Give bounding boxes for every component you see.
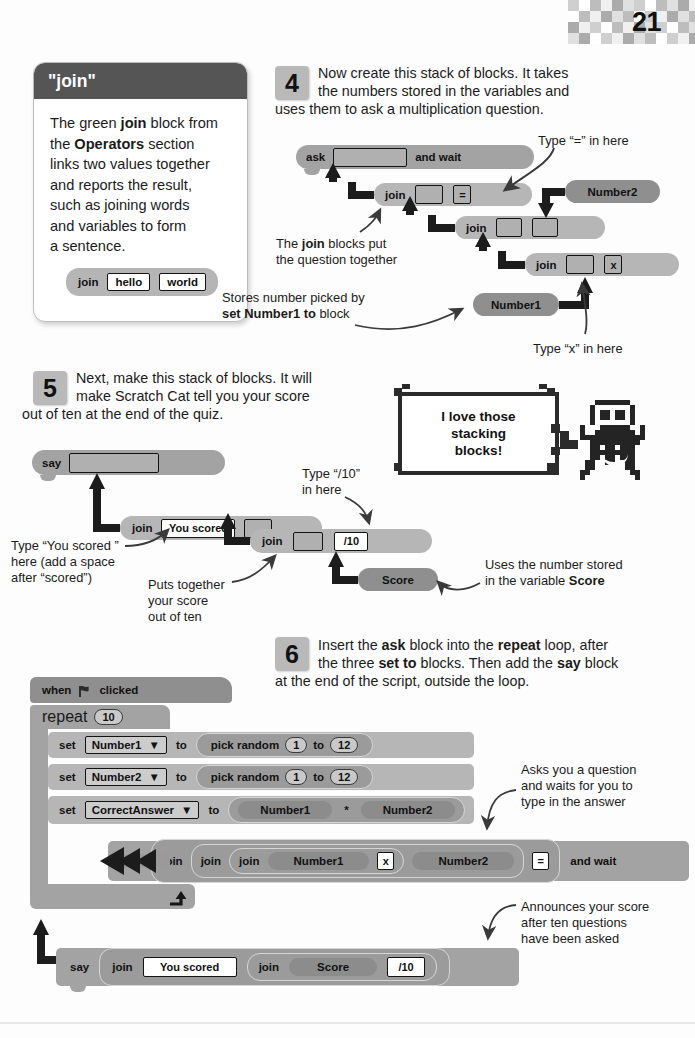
join-slash10-slot-1[interactable] xyxy=(293,532,323,551)
say6-slash10-field[interactable]: /10 xyxy=(387,957,425,977)
multiply-operator-block[interactable]: Number1 * Number2 xyxy=(228,797,464,823)
say-block-label: say xyxy=(42,457,61,469)
repeat-times-value[interactable]: 10 xyxy=(94,709,122,725)
set1-var-name: Number1 xyxy=(92,739,142,751)
annotation-announces-line-2: after ten questions xyxy=(521,915,627,931)
s6-1a: Insert the xyxy=(318,637,382,653)
say6-score-variable[interactable]: Score xyxy=(289,958,377,976)
page-canvas: 21 "join" The green join block from the … xyxy=(0,0,695,1038)
set2-variable-dropdown[interactable]: Number2 ▼ xyxy=(85,768,167,786)
when-label: when xyxy=(42,684,71,696)
say-block-step5[interactable]: say xyxy=(32,450,225,475)
join-bot-label: join xyxy=(536,259,556,271)
annotation-type-x: Type “x” in here xyxy=(533,341,623,357)
join-bot-slot-1[interactable] xyxy=(566,255,594,274)
join-top-slot-1[interactable] xyxy=(415,185,443,204)
set2-set-label: set xyxy=(59,771,76,783)
say-block-step6[interactable]: say join You scored join Score /10 xyxy=(56,948,519,986)
chevron-down-icon: ▼ xyxy=(148,771,159,783)
pick-random-2-to-label: to xyxy=(313,771,324,783)
pick-random-2-from[interactable]: 1 xyxy=(285,769,307,785)
set3-to-label: to xyxy=(208,804,219,816)
number2-label: Number2 xyxy=(588,186,638,198)
ask6-join2-label: join xyxy=(201,855,221,867)
set1-variable-dropdown[interactable]: Number1 ▼ xyxy=(85,736,167,754)
join-demo-field-2[interactable]: world xyxy=(159,273,206,291)
set-correctanswer-block[interactable]: set CorrectAnswer ▼ to Number1 * Number2 xyxy=(48,796,474,824)
say6-join-outer[interactable]: join You scored join Score /10 xyxy=(99,948,450,986)
s6-1c: block into the xyxy=(405,637,497,653)
ann-jb-1: The xyxy=(276,236,302,251)
join-mid-slot-1[interactable] xyxy=(496,218,522,237)
ann-stores-bold: set Number1 to xyxy=(222,306,316,321)
ask-block-label: ask xyxy=(306,151,325,163)
set3-variable-dropdown[interactable]: CorrectAnswer ▼ xyxy=(85,801,200,819)
panel-text-8: and variables to form xyxy=(50,218,186,234)
repeat-label: repeat xyxy=(42,708,87,726)
score-label: Score xyxy=(382,574,414,586)
join-mid-slot-2[interactable] xyxy=(532,218,558,237)
say-block-input-slot[interactable] xyxy=(69,453,159,473)
annotation-join-blocks-line-1: The join blocks put xyxy=(276,236,386,252)
multiply-operand-number2[interactable]: Number2 xyxy=(361,801,455,819)
pick-random-block-2[interactable]: pick random 1 to 12 xyxy=(196,765,374,789)
repeat-block-left-arm xyxy=(30,729,48,884)
say6-join-inner[interactable]: join Score /10 xyxy=(247,953,437,981)
number1-variable-block-step4[interactable]: Number1 xyxy=(473,293,559,316)
ask-block-input-slot[interactable] xyxy=(333,148,407,167)
set1-to-label: to xyxy=(176,739,187,751)
score-variable-block-step5[interactable]: Score xyxy=(358,568,438,591)
pick-random-1-from[interactable]: 1 xyxy=(285,737,307,753)
panel-text-3: the xyxy=(50,136,74,152)
ask6-join-outer[interactable]: join join join Number1 x Number2 = xyxy=(151,839,560,883)
join-youscored-field[interactable]: You scored xyxy=(161,519,235,538)
join-block-middle[interactable]: join xyxy=(455,216,605,239)
ask6-and-wait-label: and wait xyxy=(570,855,616,867)
pick-random-2-until[interactable]: 12 xyxy=(330,769,358,785)
set-number1-block[interactable]: set Number1 ▼ to pick random 1 to 12 xyxy=(48,732,474,758)
annotation-type-slash10-line-1: Type “/10” xyxy=(302,466,360,482)
s6-2e: block xyxy=(581,655,618,671)
join-demo-block[interactable]: join hello world xyxy=(66,268,218,296)
ask6-join-middle[interactable]: join join Number1 x Number2 xyxy=(191,844,525,878)
pick-random-1-label: pick random xyxy=(211,739,279,751)
annotation-announces-line-3: have been asked xyxy=(521,931,619,947)
panel-text-5: links two values together xyxy=(50,156,210,172)
pick-random-block-1[interactable]: pick random 1 to 12 xyxy=(196,733,374,757)
ask6-number1-variable[interactable]: Number1 xyxy=(268,852,370,870)
pick-random-1-until[interactable]: 12 xyxy=(330,737,358,753)
join-bot-slot-2[interactable]: x xyxy=(604,255,622,274)
ask-block-step6[interactable]: ask join join join Number1 x Number2 = a… xyxy=(108,841,689,881)
set2-var-name: Number2 xyxy=(92,771,142,783)
set1-set-label: set xyxy=(59,739,76,751)
annotation-join-blocks-line-2: the question together xyxy=(276,252,397,268)
annotation-asks-line-1: Asks you a question xyxy=(521,762,636,778)
ask-block[interactable]: ask and wait xyxy=(296,145,534,169)
ask6-number2-variable[interactable]: Number2 xyxy=(412,852,514,870)
join-block-slash10[interactable]: join /10 xyxy=(250,529,432,553)
number2-variable-block-step4[interactable]: Number2 xyxy=(565,180,660,203)
multiply-operand-number1[interactable]: Number1 xyxy=(238,801,332,819)
footer-divider xyxy=(0,1022,695,1024)
annotation-asks-line-3: type in the answer xyxy=(521,794,626,810)
panel-body-text: The green join block from the Operators … xyxy=(34,99,247,257)
chevron-down-icon: ▼ xyxy=(181,804,192,816)
join-block-top[interactable]: join = xyxy=(374,183,532,206)
annotation-type-equals: Type “=” in here xyxy=(538,133,629,149)
pick-random-2-label: pick random xyxy=(211,771,279,783)
ask6-join-inner[interactable]: join Number1 x xyxy=(229,848,404,874)
say6-youscored-field[interactable]: You scored xyxy=(143,957,237,977)
join-top-slot-2[interactable]: = xyxy=(453,185,471,204)
join-block-bottom[interactable]: join x xyxy=(525,253,679,276)
pixel-alien-character xyxy=(580,400,650,500)
join-demo-field-1[interactable]: hello xyxy=(107,273,150,291)
set-number2-block[interactable]: set Number2 ▼ to pick random 1 to 12 xyxy=(48,764,474,790)
join-slash10-field[interactable]: /10 xyxy=(334,532,368,551)
annotation-puts-line-3: out of ten xyxy=(148,609,202,625)
ask6-equals-field[interactable]: = xyxy=(532,852,549,870)
join-demo-label: join xyxy=(78,276,98,288)
ask6-times-field[interactable]: x xyxy=(377,852,394,870)
ann-jb-bold: join xyxy=(302,236,325,251)
when-flag-clicked-block[interactable]: when clicked xyxy=(30,677,232,703)
panel-title: "join" xyxy=(34,63,247,99)
